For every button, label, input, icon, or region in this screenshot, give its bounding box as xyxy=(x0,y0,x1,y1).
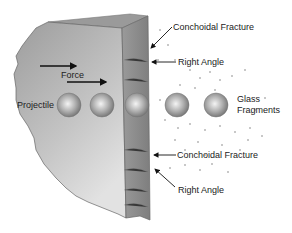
glass-fragments-label-2: Fragments xyxy=(237,105,280,115)
pointer-conchoidal-top xyxy=(151,27,172,48)
projectile-5 xyxy=(204,93,228,117)
glass-front-face xyxy=(14,22,126,218)
projectile-2 xyxy=(90,93,114,117)
projectile-3 xyxy=(125,93,149,117)
conchoidal-fracture-label-bottom: Conchoidal Fracture xyxy=(177,150,258,160)
glass-fracture-diagram xyxy=(0,0,292,233)
pointer-right-angle-bottom xyxy=(155,169,175,187)
force-label: Force xyxy=(61,70,84,80)
projectile-label: Projectile xyxy=(17,100,54,110)
conchoidal-fracture-label-top: Conchoidal Fracture xyxy=(173,22,254,32)
projectile-1 xyxy=(57,93,81,117)
glass-fragments-label-1: Glass xyxy=(237,94,260,104)
projectile-4 xyxy=(165,93,189,117)
right-angle-label-bottom: Right Angle xyxy=(178,185,224,195)
right-angle-label-top: Right Angle xyxy=(178,57,224,67)
